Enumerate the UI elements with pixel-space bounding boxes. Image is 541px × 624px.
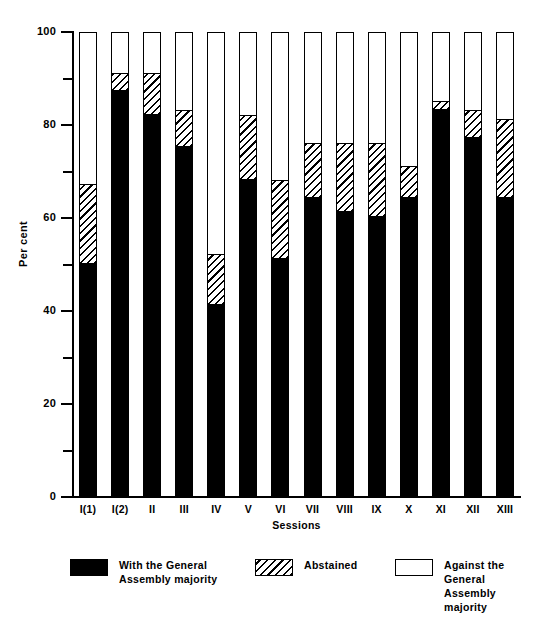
bar-segment-with-majority: [369, 217, 385, 496]
y-tick-minor: [63, 450, 72, 452]
bar-segment-with-majority: [272, 259, 288, 496]
bar-stack[interactable]: [111, 32, 129, 497]
bar-segment-abstained: [240, 115, 256, 180]
legend-swatch-white: [395, 559, 433, 576]
y-tick-label: 20: [6, 398, 56, 409]
y-tick-label: 80: [6, 119, 56, 130]
bar-segment-with-majority: [176, 147, 192, 496]
bar-stack[interactable]: [400, 32, 418, 497]
legend-item[interactable]: With the General Assembly majority: [70, 558, 217, 586]
legend-label: Abstained: [304, 558, 357, 572]
bar-segment-with-majority: [305, 198, 321, 496]
y-tick-minor: [63, 78, 72, 80]
bar-stack[interactable]: [143, 32, 161, 497]
bar-segment-with-majority: [401, 198, 417, 496]
bar-stack[interactable]: [336, 32, 354, 497]
legend-item[interactable]: Abstained: [255, 558, 357, 576]
x-axis-title: Sessions: [72, 519, 521, 531]
bar-stack[interactable]: [175, 32, 193, 497]
bar-segment-abstained: [369, 143, 385, 217]
chart-legend: With the General Assembly majorityAbstai…: [0, 558, 541, 610]
y-tick-major: [61, 496, 72, 498]
bar-stack[interactable]: [239, 32, 257, 497]
bar-stack[interactable]: [79, 32, 97, 497]
y-tick-minor: [63, 357, 72, 359]
bar-segment-abstained: [208, 254, 224, 305]
legend-swatch-black: [70, 559, 108, 576]
y-tick-major: [61, 403, 72, 405]
bar-segment-abstained: [112, 73, 128, 92]
y-tick-label: 40: [6, 305, 56, 316]
y-tick-major: [61, 310, 72, 312]
bar-segment-with-majority: [240, 180, 256, 496]
bar-segment-abstained: [176, 110, 192, 147]
bar-segment-with-majority: [465, 138, 481, 496]
bars-group: [72, 32, 521, 497]
bar-segment-with-majority: [433, 110, 449, 496]
bar-segment-abstained: [497, 119, 513, 198]
bar-segment-with-majority: [497, 198, 513, 496]
y-tick-label: 0: [6, 491, 56, 502]
bar-segment-abstained: [337, 143, 353, 213]
legend-label: With the General Assembly majority: [119, 558, 217, 586]
bar-segment-with-majority: [208, 305, 224, 496]
bar-segment-abstained: [433, 101, 449, 110]
y-tick-major: [61, 217, 72, 219]
bar-stack[interactable]: [496, 32, 514, 497]
bar-segment-abstained: [144, 73, 160, 115]
bar-segment-with-majority: [144, 115, 160, 496]
x-tick-label: XIII: [475, 503, 535, 515]
bar-segment-abstained: [80, 184, 96, 263]
y-tick-minor: [63, 171, 72, 173]
bar-segment-abstained: [272, 180, 288, 259]
legend-label: Against the General Assembly majority: [444, 558, 541, 614]
bar-segment-with-majority: [112, 91, 128, 496]
bar-segment-abstained: [465, 110, 481, 138]
y-tick-major: [61, 31, 72, 33]
bar-stack[interactable]: [432, 32, 450, 497]
y-tick-minor: [63, 264, 72, 266]
legend-item[interactable]: Against the General Assembly majority: [395, 558, 541, 614]
legend-swatch-hatch: [255, 559, 293, 576]
bar-segment-with-majority: [337, 212, 353, 496]
bar-segment-with-majority: [80, 264, 96, 497]
bar-stack[interactable]: [368, 32, 386, 497]
bar-segment-abstained: [401, 166, 417, 199]
bar-stack[interactable]: [464, 32, 482, 497]
bar-segment-abstained: [305, 143, 321, 199]
y-tick-label: 100: [6, 26, 56, 37]
y-tick-major: [61, 124, 72, 126]
bar-stack[interactable]: [207, 32, 225, 497]
bar-stack[interactable]: [304, 32, 322, 497]
chart-figure: Per cent 020406080100 I(1)I(2)IIIIIIVVVI…: [0, 0, 541, 624]
bar-stack[interactable]: [271, 32, 289, 497]
y-tick-label: 60: [6, 212, 56, 223]
